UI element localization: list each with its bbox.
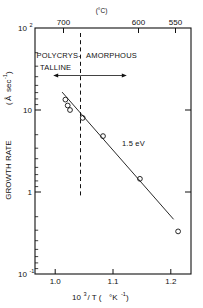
y-tick-01-base: 10 xyxy=(18,270,27,279)
y-axis-major-ticks xyxy=(35,110,191,192)
y-axis-units-angstrom: Å xyxy=(4,95,13,101)
region-arrow-right xyxy=(81,73,127,77)
arrow-head-right xyxy=(122,73,127,77)
region-arrow-left xyxy=(53,73,80,77)
top-axis-ticks xyxy=(64,28,176,33)
fit-line-1-5-ev xyxy=(62,92,174,219)
y-tick-100-base: 10 xyxy=(18,24,27,33)
data-point xyxy=(63,97,68,102)
x-axis-title-degk: °K xyxy=(109,293,118,302)
chart-canvas: (°C) 700 600 550 1.0 1.1 1.2 10 3 / T ( … xyxy=(0,0,203,308)
top-tick-label-550: 550 xyxy=(169,18,183,27)
y-axis-units-sec: sec xyxy=(4,80,13,92)
top-tick-label-700: 700 xyxy=(57,18,71,27)
y-tick-100-exp: 2 xyxy=(30,22,33,28)
y-tick-01-exp: -1 xyxy=(30,268,35,274)
slope-label-energy: 1.5 eV xyxy=(122,139,145,148)
x-tick-label-1-1: 1.1 xyxy=(107,277,119,286)
y-axis-title-main: GROWTH RATE xyxy=(4,140,13,199)
y-axis-units-open: ( xyxy=(4,102,13,105)
top-axis-label: (°C) xyxy=(96,7,108,15)
y-axis-title-units: ( Å sec -1 ) xyxy=(2,71,13,105)
bottom-axis-ticks xyxy=(55,269,171,274)
x-tick-label-1-2: 1.2 xyxy=(165,277,177,286)
x-axis-title-mid: / T ( xyxy=(88,293,102,302)
y-axis-title: GROWTH RATE xyxy=(4,140,13,199)
region-label-amorphous: AMORPHOUS xyxy=(86,51,137,60)
figure-arrhenius-growth-rate: (°C) 700 600 550 1.0 1.1 1.2 10 3 / T ( … xyxy=(0,0,203,308)
x-tick-label-1-0: 1.0 xyxy=(50,277,62,286)
y-tick-label-100: 10 2 xyxy=(18,22,33,33)
arrow-head-left xyxy=(53,73,58,77)
x-axis-title-close: ) xyxy=(126,293,129,302)
y-tick-label-0-1: 10 -1 xyxy=(18,268,34,279)
top-tick-label-600: 600 xyxy=(132,18,146,27)
region-label-polycrystalline-line2: TALLINE xyxy=(40,63,71,72)
y-tick-label-10: 10 xyxy=(23,106,32,115)
data-point xyxy=(101,134,106,139)
x-axis-title-base: 10 xyxy=(72,293,81,302)
y-tick-label-1: 1 xyxy=(28,188,33,197)
x-axis-title-exp: 3 xyxy=(84,291,87,297)
data-point xyxy=(68,108,73,113)
region-label-polycrystalline-line1: POLYCRYS- xyxy=(37,51,82,60)
data-point xyxy=(176,229,181,234)
y-axis-units-close: ) xyxy=(4,71,13,74)
data-point xyxy=(65,103,70,108)
x-axis-title: 10 3 / T ( °K -1 ) xyxy=(72,291,129,302)
